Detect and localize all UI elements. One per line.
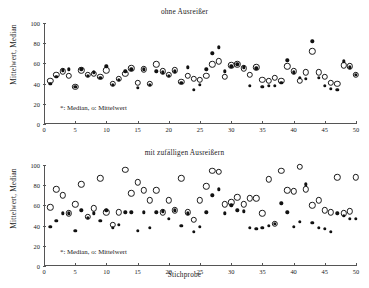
y-tick — [43, 185, 46, 186]
data-point-median — [336, 88, 339, 91]
x-tick-label: 35 — [259, 126, 265, 133]
data-point-median — [329, 87, 332, 90]
data-point-median — [180, 224, 183, 227]
data-point-median — [286, 211, 289, 214]
data-point-median — [111, 226, 114, 229]
x-tick-label: 30 — [228, 126, 234, 133]
data-point-median — [323, 84, 326, 87]
data-point-mittelwert — [334, 174, 340, 180]
data-point-mittelwert — [134, 179, 140, 185]
data-point-mittelwert — [347, 208, 353, 214]
data-point-median — [192, 230, 195, 233]
y-axis-label-bottom: Mittelwert, Median — [9, 161, 18, 237]
data-point-median — [336, 212, 339, 215]
data-point-median — [73, 229, 76, 232]
x-tick — [325, 121, 326, 124]
data-point-median — [155, 211, 158, 214]
chart-panel-mit-ausreissern: mit zufälligen Ausreißern Mittelwert, Me… — [0, 144, 369, 288]
data-point-mittelwert — [234, 194, 240, 200]
data-point-median — [223, 212, 226, 215]
x-tick — [231, 121, 232, 124]
data-point-mittelwert — [284, 63, 290, 69]
x-tick-label: 40 — [290, 126, 296, 133]
y-tick-label: 0 — [37, 263, 40, 270]
y-tick — [43, 266, 46, 267]
y-tick-label: 20 — [34, 242, 40, 249]
x-tick — [106, 121, 107, 124]
data-point-median — [130, 211, 133, 214]
data-point-mittelwert — [47, 204, 53, 210]
data-point-median — [49, 82, 52, 85]
x-tick-label: 25 — [197, 126, 203, 133]
x-tick-label: 20 — [166, 126, 172, 133]
x-tick — [138, 121, 139, 124]
x-tick — [325, 263, 326, 266]
y-axis-line-top — [44, 23, 45, 124]
x-tick — [106, 263, 107, 266]
y-tick — [43, 104, 46, 105]
data-point-median — [254, 227, 257, 230]
y-tick-label: 60 — [34, 60, 40, 67]
y-tick-label: 100 — [30, 162, 40, 169]
data-point-median — [186, 66, 189, 69]
data-point-median — [342, 214, 345, 217]
data-point-median — [55, 219, 58, 222]
y-tick-label: 80 — [34, 182, 40, 189]
data-point-median — [217, 46, 220, 49]
data-point-median — [298, 220, 301, 223]
data-point-median — [80, 209, 83, 212]
data-point-median — [348, 217, 351, 220]
data-point-mittelwert — [259, 210, 265, 216]
x-tick — [75, 263, 76, 266]
data-point-mittelwert — [97, 175, 103, 181]
x-tick — [200, 121, 201, 124]
x-tick — [44, 263, 45, 266]
x-tick — [262, 263, 263, 266]
data-point-mittelwert — [265, 176, 271, 182]
x-axis-label-bottom: Stichprobe — [0, 270, 369, 279]
chart-title-top: ohne Ausreißer — [0, 7, 369, 16]
data-point-median — [98, 219, 101, 222]
x-tick — [169, 121, 170, 124]
data-point-mittelwert — [178, 175, 184, 181]
data-point-median — [267, 84, 270, 87]
data-point-mittelwert — [247, 71, 253, 77]
data-point-median — [311, 39, 314, 42]
data-point-mittelwert — [72, 201, 78, 207]
data-point-median — [211, 194, 214, 197]
y-tick — [43, 246, 46, 247]
data-point-mittelwert — [216, 58, 222, 64]
data-point-median — [279, 81, 282, 84]
data-point-median — [136, 86, 139, 89]
data-point-mittelwert — [303, 186, 309, 192]
data-point-median — [279, 202, 282, 205]
x-tick — [138, 263, 139, 266]
x-tick — [200, 263, 201, 266]
data-point-median — [304, 77, 307, 80]
data-point-median — [205, 68, 208, 71]
data-point-mittelwert — [66, 72, 72, 78]
data-point-median — [286, 59, 289, 62]
x-tick — [169, 263, 170, 266]
data-point-median — [323, 227, 326, 230]
data-point-median — [317, 226, 320, 229]
data-point-median — [67, 68, 70, 71]
y-tick — [43, 63, 46, 64]
x-tick — [75, 121, 76, 124]
data-point-median — [155, 70, 158, 73]
data-point-mittelwert — [91, 205, 97, 211]
data-point-mittelwert — [197, 197, 203, 203]
data-point-median — [261, 226, 264, 229]
data-point-median — [61, 212, 64, 215]
data-point-median — [136, 229, 139, 232]
data-point-median — [92, 212, 95, 215]
data-point-median — [248, 84, 251, 87]
data-point-median — [148, 226, 151, 229]
data-point-mittelwert — [166, 197, 172, 203]
data-point-mittelwert — [303, 69, 309, 75]
x-tick — [356, 121, 357, 124]
data-point-mittelwert — [53, 186, 59, 192]
data-point-median — [198, 225, 201, 228]
data-point-mittelwert — [116, 209, 122, 215]
y-axis-line-bottom — [44, 165, 45, 266]
